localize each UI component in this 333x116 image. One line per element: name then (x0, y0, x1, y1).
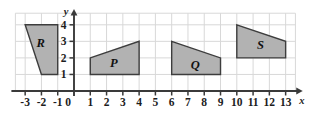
y-axis-label: y (62, 6, 69, 17)
shape-label-q: Q (191, 58, 200, 72)
y-tick-label: 1 (61, 68, 67, 80)
x-axis-label: x (298, 95, 304, 106)
coordinate-plane-svg: RPQS-3-2-11234567891011121312340xy (0, 0, 333, 116)
x-tick-label: 10 (231, 96, 243, 108)
coordinate-grid-figure: RPQS-3-2-11234567891011121312340xy (0, 0, 333, 116)
x-tick-label: 3 (120, 96, 126, 108)
x-tick-label: 6 (169, 96, 175, 108)
x-tick-label: 2 (104, 96, 110, 108)
x-tick-label: 1 (87, 96, 93, 108)
shape-label-s: S (257, 38, 264, 52)
x-tick-label: 13 (280, 96, 292, 108)
x-tick-label: -3 (20, 96, 30, 108)
y-tick-label: 4 (61, 19, 67, 31)
x-tick-label: 5 (153, 96, 159, 108)
y-tick-label: 2 (61, 52, 67, 64)
origin-label: 0 (65, 96, 71, 108)
x-tick-label: 7 (185, 96, 191, 108)
x-tick-label: 4 (136, 96, 142, 108)
x-axis-arrowhead (296, 88, 303, 95)
shape-label-p: P (110, 56, 118, 70)
x-tick-label: -2 (37, 96, 47, 108)
x-tick-label: 9 (218, 96, 224, 108)
x-tick-label: 11 (248, 96, 259, 108)
x-tick-label: 8 (201, 96, 207, 108)
y-axis-arrowhead (71, 9, 78, 16)
shape-label-r: R (35, 36, 44, 50)
x-tick-label: -1 (53, 96, 63, 108)
x-tick-label: 12 (264, 96, 276, 108)
y-tick-label: 3 (61, 35, 67, 47)
